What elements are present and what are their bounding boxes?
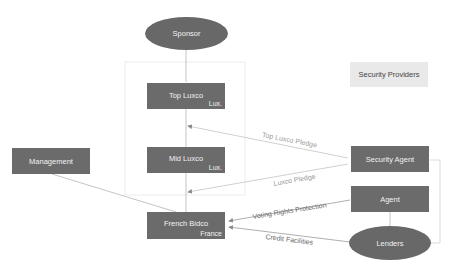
mid-luxco-label: Mid Luxco [147,154,225,163]
mid-luxco-jurisdiction: Lux. [209,164,222,171]
french-bidco-jurisdiction: France [200,230,222,237]
top-luxco-node: Top Luxco Lux. [147,83,225,109]
management-label: Management [12,157,90,166]
security-agent-label: Security Agent [351,155,429,164]
top-luxco-jurisdiction: Lux. [209,100,222,107]
lenders-node: Lenders [349,226,431,260]
french-bidco-node: French Bidco France [147,212,225,239]
french-bidco-label: French Bidco [147,219,225,228]
security-providers-legend: Security Providers [350,62,428,87]
security-agent-node: Security Agent [351,146,429,172]
sponsor-node: Sponsor [145,17,228,50]
top-luxco-label: Top Luxco [147,91,225,100]
management-node: Management [12,148,90,174]
structure-diagram: Sponsor Security Providers Top Luxco Lux… [0,0,449,268]
sponsor-label: Sponsor [173,29,201,38]
lenders-label: Lenders [376,239,403,248]
mid-luxco-node: Mid Luxco Lux. [147,147,225,173]
agent-node: Agent [351,186,429,212]
agent-label: Agent [351,195,429,204]
security-provider-group-outline [125,62,245,195]
legend-label: Security Providers [359,70,420,79]
